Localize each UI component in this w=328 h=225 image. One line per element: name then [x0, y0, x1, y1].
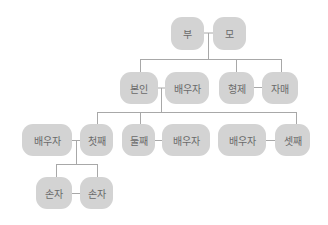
node-third-child: 셋째	[275, 124, 310, 156]
node-grandchild-1: 손자	[36, 177, 72, 209]
node-first-child: 첫째	[80, 124, 113, 156]
node-grandchild-2: 손자	[80, 177, 113, 209]
node-self-spouse: 배우자	[165, 72, 209, 104]
node-third-spouse: 배우자	[218, 124, 266, 156]
node-brother: 형제	[219, 72, 254, 104]
node-second-spouse: 배우자	[162, 124, 210, 156]
node-mother: 모	[213, 17, 246, 50]
node-self: 본인	[120, 72, 158, 104]
node-father: 부	[171, 17, 204, 50]
node-first-spouse: 배우자	[22, 124, 72, 156]
node-second-child: 둘째	[122, 124, 155, 156]
node-sister: 자매	[262, 72, 298, 104]
